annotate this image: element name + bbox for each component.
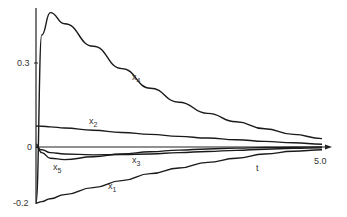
y-tick-label-zero: 0 <box>27 143 32 152</box>
curve-x2 <box>36 126 322 144</box>
x-axis-arrow-icon <box>325 145 332 150</box>
curve-x4 <box>36 13 322 203</box>
curve-label-x3: x3 <box>132 156 140 167</box>
y-tick-label-bottom: -0.2 <box>13 199 29 208</box>
y-tick-label-top: 0.3 <box>17 59 30 68</box>
curves <box>36 13 322 203</box>
curve-label-x5: x5 <box>53 163 61 174</box>
curve-label-x2: x2 <box>89 117 97 128</box>
chart-canvas <box>0 0 347 217</box>
x-axis-label: t <box>256 164 259 173</box>
curve-label-x4: x4 <box>132 73 140 84</box>
x-tick-label-end: 5.0 <box>314 157 327 166</box>
curve-x3 <box>36 147 322 155</box>
curve-label-x1: x1 <box>108 182 116 193</box>
